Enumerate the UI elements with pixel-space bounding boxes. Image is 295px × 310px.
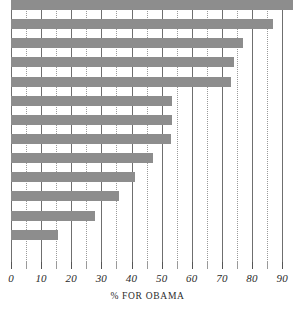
bar-row — [11, 172, 293, 182]
bar-row — [11, 19, 293, 29]
plot-area — [11, 0, 293, 268]
bar-row — [11, 38, 293, 48]
bar — [11, 230, 58, 240]
tick-mark-major — [192, 262, 193, 269]
bar-chart: 0102030405060708090 % FOR OBAMA — [0, 0, 295, 310]
tick-mark-minor — [56, 262, 57, 269]
bar-row — [11, 230, 293, 240]
tick-mark-minor — [267, 262, 268, 269]
bar-row — [11, 211, 293, 221]
bar — [11, 38, 243, 48]
bar — [11, 115, 172, 125]
bar-row — [11, 134, 293, 144]
tick-mark-major — [132, 262, 133, 269]
tick-mark-minor — [26, 262, 27, 269]
bar-row — [11, 0, 293, 10]
bar-row — [11, 191, 293, 201]
bar — [11, 77, 231, 87]
tick-mark-minor — [177, 262, 178, 269]
tick-mark-minor — [207, 262, 208, 269]
tick-mark-major — [41, 262, 42, 269]
bar-row — [11, 57, 293, 67]
tick-mark-major — [11, 262, 12, 269]
bar — [11, 172, 135, 182]
bar-row — [11, 77, 293, 87]
bar-row — [11, 153, 293, 163]
bar-row — [11, 249, 293, 259]
bar — [11, 0, 293, 10]
bar — [11, 153, 153, 163]
bar — [11, 57, 234, 67]
tick-mark-major — [101, 262, 102, 269]
bar — [11, 211, 95, 221]
x-tick-label: 90 — [262, 272, 295, 285]
bar — [11, 134, 171, 144]
bar — [11, 191, 119, 201]
tick-mark-major — [222, 262, 223, 269]
bar — [11, 96, 172, 106]
bar — [11, 19, 273, 29]
tick-mark-major — [252, 262, 253, 269]
tick-mark-minor — [86, 262, 87, 269]
bar-row — [11, 115, 293, 125]
x-axis-title: % FOR OBAMA — [0, 291, 295, 301]
tick-mark-major — [282, 262, 283, 269]
tick-mark-minor — [147, 262, 148, 269]
bar-row — [11, 96, 293, 106]
tick-mark-minor — [237, 262, 238, 269]
tick-mark-major — [71, 262, 72, 269]
tick-mark-major — [162, 262, 163, 269]
tick-mark-minor — [116, 262, 117, 269]
